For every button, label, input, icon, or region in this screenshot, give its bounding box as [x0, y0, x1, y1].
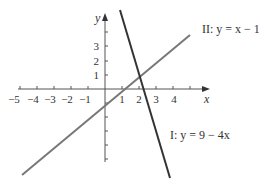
x-axis-label: x	[203, 92, 210, 106]
x-tick-label: −3	[44, 93, 56, 105]
x-tick-label: 4	[171, 93, 177, 105]
x-tick-label: 2	[136, 93, 142, 105]
x-tick-label: −1	[79, 93, 91, 105]
graph: −5 −4 −3 −2 −1 1 2 3 4 1 2 3 y x II: y =…	[0, 0, 269, 187]
x-tick-labels: −5 −4 −3 −2 −1 1 2 3 4	[8, 93, 177, 105]
y-axis-arrow-icon	[102, 13, 108, 21]
line-ii	[22, 35, 190, 175]
y-tick-label: 1	[94, 69, 100, 81]
y-tick-labels: 1 2 3	[94, 40, 100, 81]
x-tick-label: 1	[119, 93, 125, 105]
line-i-label: I: y = 9 − 4x	[170, 128, 230, 142]
x-tick-label: −2	[61, 93, 73, 105]
x-tick-label: −5	[8, 93, 20, 105]
y-tick-label: 3	[94, 40, 100, 52]
y-axis-label: y	[94, 11, 101, 25]
x-tick-label: 3	[153, 93, 159, 105]
line-i	[120, 10, 170, 178]
y-tick-label: 2	[94, 55, 100, 67]
line-ii-label: II: y = x − 1	[202, 22, 260, 36]
x-tick-label: −4	[27, 93, 39, 105]
